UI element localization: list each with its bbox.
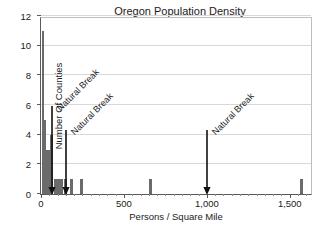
- y-tick-label: 10: [20, 41, 31, 51]
- y-tick-label: 4: [26, 130, 31, 140]
- x-tick-minor: [215, 194, 216, 196]
- x-tick-minor: [223, 194, 224, 196]
- x-tick-minor: [273, 194, 274, 196]
- histogram-bar: [80, 179, 83, 194]
- y-tick-mark: [37, 15, 41, 16]
- gridline: [41, 104, 311, 105]
- y-tick-mark: [37, 74, 41, 75]
- x-tick-minor: [157, 194, 158, 196]
- x-tick-minor: [199, 194, 200, 196]
- natural-break-label: Natural Break: [210, 92, 255, 137]
- x-tick-minor: [240, 194, 241, 196]
- y-tick-label: 6: [26, 101, 31, 111]
- x-tick-minor: [174, 194, 175, 196]
- x-tick-minor: [107, 194, 108, 196]
- x-tick-label: 0: [38, 199, 43, 209]
- y-tick-mark: [37, 45, 41, 46]
- y-tick-label: 12: [20, 12, 31, 22]
- x-tick-minor: [82, 194, 83, 196]
- gridline: [41, 15, 311, 16]
- x-tick-label: 500: [116, 199, 132, 209]
- x-tick-minor: [99, 194, 100, 196]
- y-axis-label: Number Of Counties: [53, 63, 64, 150]
- x-tick-minor: [116, 194, 117, 196]
- y-tick-label: 2: [26, 160, 31, 170]
- x-axis-label: Persons / Square Mile: [41, 211, 311, 222]
- x-tick-minor: [91, 194, 92, 196]
- gridline: [41, 45, 311, 46]
- x-tick-minor: [281, 194, 282, 196]
- y-tick-mark: [37, 134, 41, 135]
- x-tick-minor: [165, 194, 166, 196]
- histogram-bar: [300, 179, 303, 194]
- x-tick-minor: [141, 194, 142, 196]
- y-tick-label: 8: [26, 71, 31, 81]
- y-tick-mark: [37, 163, 41, 164]
- gridline: [41, 163, 311, 164]
- natural-break-arrow: [203, 130, 211, 195]
- x-tick-minor: [149, 194, 150, 196]
- x-tick-minor: [265, 194, 266, 196]
- x-tick-label: 1,500: [278, 199, 302, 209]
- gridline: [41, 74, 311, 75]
- y-tick-mark: [37, 104, 41, 105]
- x-tick-minor: [132, 194, 133, 196]
- histogram-bar: [149, 179, 152, 194]
- x-tick-minor: [58, 194, 59, 196]
- x-tick-minor: [190, 194, 191, 196]
- x-tick-minor: [298, 194, 299, 196]
- y-tick-mark: [37, 193, 41, 194]
- x-tick-minor: [182, 194, 183, 196]
- x-tick-minor: [232, 194, 233, 196]
- x-tick-minor: [74, 194, 75, 196]
- x-tick-minor: [306, 194, 307, 196]
- x-tick-minor: [248, 194, 249, 196]
- x-tick-minor: [257, 194, 258, 196]
- y-tick-label: 0: [26, 190, 31, 200]
- chart-figure: Oregon Population Density By County 0500…: [0, 0, 326, 242]
- plot-area: 05001,0001,500 024681012 Natural BreakNa…: [40, 17, 312, 195]
- gridline: [41, 134, 311, 135]
- x-tick-label: 1,000: [195, 199, 219, 209]
- histogram-bar: [70, 179, 73, 194]
